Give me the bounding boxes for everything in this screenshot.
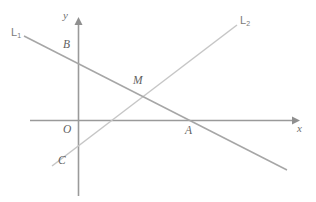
point-label-m: M xyxy=(133,75,143,87)
geometry-diagram xyxy=(0,0,316,202)
line-l2 xyxy=(52,25,237,166)
line-label-l1: L1 xyxy=(11,27,21,38)
x-axis-label: x xyxy=(297,123,302,134)
point-label-o: O xyxy=(63,124,71,136)
y-axis-label: y xyxy=(63,10,68,21)
line-l1 xyxy=(24,36,287,170)
point-label-b: B xyxy=(63,39,70,51)
line-label-l2: L2 xyxy=(240,15,250,26)
diagram-canvas: L1 L2 y x B M O A C xyxy=(0,0,316,202)
point-label-c: C xyxy=(58,155,66,167)
y-axis-arrowhead xyxy=(75,17,83,25)
point-label-a: A xyxy=(185,125,192,137)
line-label-l2-subscript: 2 xyxy=(246,20,250,27)
line-label-l1-subscript: 1 xyxy=(17,32,21,39)
